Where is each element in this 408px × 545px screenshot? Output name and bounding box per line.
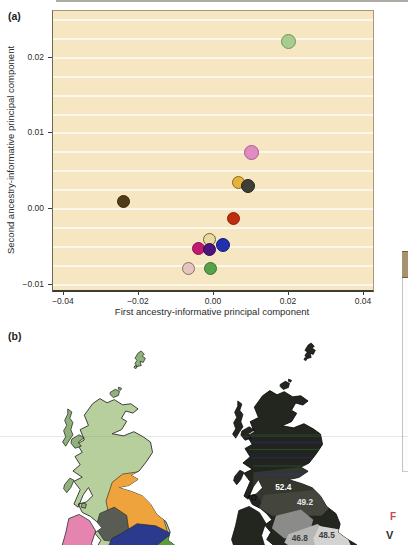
x-tick-label: −0.02 bbox=[121, 296, 155, 306]
map-right-ireland-fragment bbox=[232, 506, 266, 545]
y-tick-mark bbox=[48, 57, 52, 58]
map-left-ireland-fragment bbox=[62, 514, 96, 545]
y-tick-mark bbox=[48, 132, 52, 133]
gridline bbox=[53, 19, 373, 21]
cropped-legend-header bbox=[402, 251, 408, 278]
x-tick-mark bbox=[288, 291, 289, 295]
scatter-point-pale-pink bbox=[182, 262, 195, 275]
gridline bbox=[53, 227, 373, 229]
y-tick-label: −0.01 bbox=[2, 279, 44, 289]
x-tick-mark bbox=[138, 291, 139, 295]
map-value-label-46-8: 46.8 bbox=[292, 534, 308, 543]
scatter-point-royal-blue bbox=[216, 238, 230, 252]
x-tick-label: −0.04 bbox=[46, 296, 80, 306]
scatter-plot-area bbox=[52, 10, 374, 292]
gridline bbox=[53, 76, 373, 78]
scatter-point-red bbox=[227, 212, 240, 225]
x-axis-title: First ancestry-informative principal com… bbox=[52, 306, 372, 317]
cropped-caption-figure-letter: F bbox=[390, 511, 396, 522]
y-tick-label: 0.02 bbox=[2, 52, 44, 62]
x-tick-label: 0.04 bbox=[346, 296, 380, 306]
y-tick-label: 0.01 bbox=[2, 127, 44, 137]
scan-artifact-line bbox=[0, 436, 408, 437]
x-tick-label: 0.02 bbox=[271, 296, 305, 306]
x-tick-label: 0.00 bbox=[196, 296, 230, 306]
scatter-point-light-green bbox=[281, 34, 296, 49]
gridline bbox=[53, 132, 373, 134]
ancestry-values-map: 52.4 49.2 46.8 48.5 bbox=[218, 342, 363, 545]
gridline bbox=[53, 95, 373, 97]
map-value-label-52-4: 52.4 bbox=[275, 483, 291, 492]
figure-page: (a) Second ancestry-informative principa… bbox=[0, 0, 408, 545]
regional-clusters-map bbox=[48, 350, 193, 545]
page-crop-edge bbox=[56, 0, 408, 2]
y-axis-ticks: −0.010.000.010.02 bbox=[0, 10, 52, 289]
gridline bbox=[53, 57, 373, 59]
scatter-point-dark-brown bbox=[117, 195, 130, 208]
cropped-legend-box bbox=[402, 251, 408, 472]
gridline bbox=[53, 208, 373, 210]
scatter-point-green bbox=[204, 262, 217, 275]
map-value-label-48-5: 48.5 bbox=[319, 531, 335, 540]
map-value-label-49-2: 49.2 bbox=[297, 498, 313, 507]
y-tick-mark bbox=[48, 284, 52, 285]
x-tick-mark bbox=[213, 291, 214, 295]
gridline bbox=[53, 170, 373, 172]
gridline bbox=[53, 284, 373, 286]
gridline bbox=[53, 114, 373, 116]
y-tick-label: 0.00 bbox=[2, 203, 44, 213]
x-tick-mark bbox=[63, 291, 64, 295]
scatter-point-dark-purple bbox=[203, 243, 216, 256]
y-tick-mark bbox=[48, 208, 52, 209]
gridline bbox=[53, 38, 373, 40]
cropped-caption-text-letter: V bbox=[386, 529, 393, 541]
gridline bbox=[53, 189, 373, 191]
gridline bbox=[53, 151, 373, 153]
x-tick-mark bbox=[363, 291, 364, 295]
scatter-point-charcoal bbox=[241, 179, 255, 193]
panel-b-label: (b) bbox=[8, 330, 21, 342]
scatter-point-orchid-pink bbox=[244, 145, 259, 160]
